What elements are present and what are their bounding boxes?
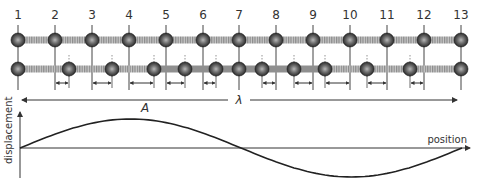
particle-ball — [269, 33, 283, 47]
particle-ball — [360, 62, 374, 76]
displacement-graph: displacement position — [3, 97, 470, 178]
wavelength-arrow: λ — [22, 93, 457, 107]
wavelength-label: λ — [234, 93, 242, 107]
amplitude-label: A — [140, 101, 149, 115]
position-label-1: 1 — [14, 8, 22, 22]
position-label-11: 11 — [379, 8, 394, 22]
position-label-12: 12 — [416, 8, 431, 22]
particle-ball — [417, 33, 431, 47]
particle-ball — [454, 62, 468, 76]
particle-ball — [232, 62, 246, 76]
position-label-3: 3 — [88, 8, 96, 22]
particle-ball — [232, 33, 246, 47]
spring — [410, 66, 461, 73]
particle-ball — [62, 62, 76, 76]
particle-ball — [209, 62, 223, 76]
y-axis-label: displacement — [3, 97, 14, 164]
particle-ball — [343, 33, 357, 47]
position-label-5: 5 — [162, 8, 170, 22]
particle-ball — [11, 33, 25, 47]
position-label-13: 13 — [453, 8, 468, 22]
position-label-9: 9 — [309, 8, 317, 22]
x-axis-label: position — [427, 134, 467, 145]
position-label-7: 7 — [235, 8, 243, 22]
equilibrium-row — [11, 33, 468, 47]
particle-ball — [147, 62, 161, 76]
particle-ball — [196, 33, 210, 47]
particle-ball — [159, 33, 173, 47]
particle-ball — [306, 33, 320, 47]
particle-ball — [255, 62, 269, 76]
longitudinal-wave-diagram: 12345678910111213 A λ displacement posit… — [0, 0, 477, 181]
particle-ball — [454, 33, 468, 47]
particle-ball — [287, 62, 301, 76]
spring — [18, 66, 69, 73]
position-label-10: 10 — [342, 8, 357, 22]
position-number-labels: 12345678910111213 — [14, 8, 468, 22]
position-label-6: 6 — [199, 8, 207, 22]
particle-ball — [178, 62, 192, 76]
position-label-2: 2 — [51, 8, 59, 22]
particle-ball — [122, 33, 136, 47]
position-label-8: 8 — [272, 8, 280, 22]
particle-ball — [105, 62, 119, 76]
particle-ball — [318, 62, 332, 76]
particle-ball — [48, 33, 62, 47]
particle-ball — [85, 33, 99, 47]
particle-ball — [11, 62, 25, 76]
particle-ball — [380, 33, 394, 47]
particle-ball — [403, 62, 417, 76]
position-label-4: 4 — [125, 8, 133, 22]
